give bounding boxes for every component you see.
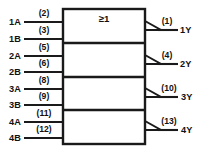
output-driver-wedge-4y xyxy=(145,121,161,130)
output-driver-wedge-1y xyxy=(145,21,161,30)
input-pin-1a: (2) xyxy=(39,8,50,18)
input-pin-1b: (3) xyxy=(39,25,50,35)
input-pin-4a: (11) xyxy=(37,108,52,118)
input-pin-3b: (9) xyxy=(39,91,50,101)
output-pin-1y: (1) xyxy=(162,16,173,26)
input-label-1b: 1B xyxy=(9,34,21,44)
input-pin-4b: (12) xyxy=(36,124,51,134)
output-label-4y: 4Y xyxy=(181,125,192,135)
qualifying-symbol-or: ≥1 xyxy=(99,13,110,24)
input-label-3a: 3A xyxy=(9,84,21,94)
input-pin-3a: (8) xyxy=(39,75,50,85)
input-label-2b: 2B xyxy=(9,67,21,77)
output-pin-4y: (13) xyxy=(161,116,176,126)
input-label-2a: 2A xyxy=(9,51,21,61)
input-label-4a: 4A xyxy=(9,117,21,127)
logic-diagram-canvas: ≥1 1A (2) 1B (3) 2A (5) 2B (6) 3A (8) 3B… xyxy=(0,0,200,151)
input-pin-2b: (6) xyxy=(39,58,50,68)
output-driver-wedge-2y xyxy=(145,55,161,64)
output-pin-3y: (10) xyxy=(161,83,176,93)
output-label-2y: 2Y xyxy=(180,59,191,69)
output-driver-wedge-3y xyxy=(145,88,161,97)
output-label-1y: 1Y xyxy=(180,25,191,35)
input-label-3b: 3B xyxy=(9,100,21,110)
input-label-1a: 1A xyxy=(9,17,21,27)
output-label-3y: 3Y xyxy=(181,92,192,102)
input-pin-2a: (5) xyxy=(39,42,50,52)
logic-symbol-diagram: ≥1 1A (2) 1B (3) 2A (5) 2B (6) 3A (8) 3B… xyxy=(0,0,200,151)
output-pin-2y: (4) xyxy=(162,50,173,60)
input-label-4b: 4B xyxy=(9,133,21,143)
